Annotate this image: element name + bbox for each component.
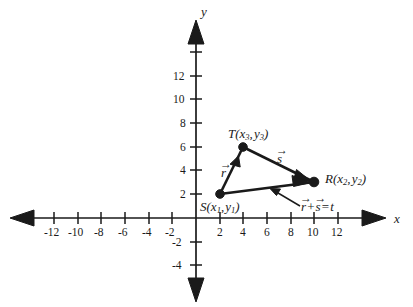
point-R-marker [309, 177, 319, 187]
point-S-comma: , [221, 199, 224, 214]
x-tick-label-8: 8 [288, 227, 294, 239]
y-tick-label--2: -2 [172, 237, 182, 249]
point-S-marker [216, 190, 225, 199]
x-tick-label--10: -10 [68, 227, 83, 239]
x-tick-label-10: 10 [307, 227, 319, 239]
point-T-comma: , [250, 126, 253, 141]
x-tick-label--8: -8 [94, 227, 104, 239]
y-tick-label-6: 6 [180, 142, 186, 154]
x-tick-label-12: 12 [331, 227, 343, 239]
x-tick-label--4: -4 [142, 227, 152, 239]
point-T-marker [239, 143, 248, 152]
y-tick-label-10: 10 [173, 94, 185, 106]
x-tick-label--6: -6 [118, 227, 128, 239]
vector-s-label: →s [277, 152, 282, 165]
point-T-close-paren: ) [264, 126, 268, 141]
vector-r-label: →r [221, 166, 226, 179]
x-tick-label-2: 2 [217, 227, 223, 239]
vector-s-overarrow-icon: → [276, 145, 281, 157]
point-R-comma: , [347, 171, 350, 186]
point-R-label: R(x2, y2) [325, 172, 366, 187]
x-tick-label-6: 6 [264, 227, 270, 239]
vector-sum-label: →r + →s = t [301, 200, 334, 213]
canvas-background [0, 0, 413, 307]
point-R-close-paren: ) [362, 171, 366, 186]
vector-sum-t-letter: t [330, 199, 334, 214]
y-tick-label--4: -4 [172, 260, 182, 272]
x-tick-label-4: 4 [240, 227, 246, 239]
point-T-label: T(x3, y3) [228, 127, 268, 142]
y-tick-label-4: 4 [180, 165, 186, 177]
x-axis-label: x [394, 212, 400, 225]
vector-r-overarrow-icon: → [220, 159, 225, 171]
point-S-label: S(x1, y1) [200, 200, 240, 215]
y-axis-label: y [201, 5, 207, 18]
x-tick-label--12: -12 [44, 227, 59, 239]
vector-addition-diagram [0, 0, 413, 307]
y-tick-label-12: 12 [173, 71, 185, 83]
point-S-close-paren: ) [235, 199, 239, 214]
point-R-letter: R [325, 171, 333, 186]
vector-sum-s-overarrow-icon: → [315, 193, 320, 205]
vector-sum-r-overarrow-icon: → [300, 193, 305, 205]
y-tick-label-8: 8 [180, 118, 186, 130]
y-tick-label-2: 2 [180, 189, 186, 201]
